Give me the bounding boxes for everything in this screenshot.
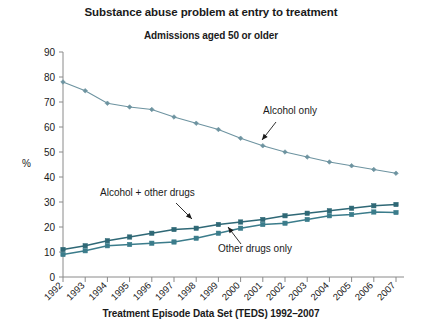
data-point <box>372 210 376 214</box>
data-point <box>127 235 131 239</box>
data-point <box>372 204 376 208</box>
data-point <box>238 136 243 141</box>
series-annotation-label: Other drugs only <box>218 243 292 254</box>
y-axis-tick-label: 70 <box>44 97 56 108</box>
x-axis-caption: Treatment Episode Data Set (TEDS) 1992–2… <box>0 308 422 319</box>
data-point <box>194 236 198 240</box>
data-point <box>61 252 65 256</box>
x-axis-tick-label: 1995 <box>108 280 131 303</box>
series-annotation-label: Alcohol + other drugs <box>100 187 195 198</box>
data-point <box>150 107 155 112</box>
data-point <box>216 231 220 235</box>
y-axis-tick-label: 90 <box>44 47 56 58</box>
annotation-group: Alcohol onlyAlcohol + other drugsOther d… <box>100 105 317 254</box>
x-axis-tick-label: 1993 <box>64 280 87 303</box>
data-point <box>127 105 132 110</box>
y-axis-tick-label: 60 <box>44 122 56 133</box>
series-annotation-label: Alcohol only <box>263 105 317 116</box>
y-axis-tick-label: 30 <box>44 197 56 208</box>
data-point <box>261 217 265 221</box>
chart-plot-area: 0102030405060708090 19921993199419951996… <box>0 0 422 324</box>
data-point <box>83 244 87 248</box>
data-point <box>83 249 87 253</box>
data-point <box>172 115 177 120</box>
y-axis-tick-label: 20 <box>44 222 56 233</box>
data-point <box>283 214 287 218</box>
y-axis-tick-label: 10 <box>44 247 56 258</box>
y-axis-tick-label: 80 <box>44 72 56 83</box>
data-point <box>61 247 65 251</box>
annotation-arrowhead <box>262 134 268 140</box>
data-point <box>238 226 242 230</box>
data-point <box>261 143 266 148</box>
x-axis-tick-label: 2006 <box>352 280 375 303</box>
data-point <box>105 244 109 248</box>
annotation-arrowhead <box>228 227 234 233</box>
data-point <box>394 171 399 176</box>
data-point <box>105 239 109 243</box>
x-axis-tick-label: 2001 <box>241 280 264 303</box>
data-point <box>105 101 110 106</box>
x-axis-tick-label: 2004 <box>308 280 331 303</box>
data-point <box>349 163 354 168</box>
data-point <box>261 222 265 226</box>
y-axis-tick-label: 40 <box>44 172 56 183</box>
data-point <box>305 211 309 215</box>
data-point <box>194 121 199 126</box>
x-axis-tick-label: 1998 <box>175 280 198 303</box>
x-axis-tick-label: 2003 <box>286 280 309 303</box>
data-point <box>394 202 398 206</box>
x-axis-tick-label: 1999 <box>197 280 220 303</box>
data-point <box>150 231 154 235</box>
data-point <box>83 88 88 93</box>
data-point <box>216 127 221 132</box>
x-axis-tick-label: 1997 <box>153 280 176 303</box>
x-axis: 1992199319941995199619971998199920002001… <box>42 277 404 302</box>
data-point <box>238 220 242 224</box>
data-point <box>61 80 66 85</box>
data-point <box>327 214 331 218</box>
data-point <box>216 222 220 226</box>
data-point <box>150 241 154 245</box>
x-axis-tick-label: 1992 <box>42 280 65 303</box>
data-point <box>172 227 176 231</box>
data-series <box>61 80 399 176</box>
x-axis-tick-label: 2000 <box>219 280 242 303</box>
x-axis-tick-label: 2005 <box>330 280 353 303</box>
data-point <box>305 217 309 221</box>
data-point <box>127 242 131 246</box>
data-point <box>349 212 353 216</box>
data-point <box>305 155 310 160</box>
data-point <box>327 160 332 165</box>
y-axis: 0102030405060708090 <box>44 47 63 283</box>
x-axis-tick-label: 1996 <box>130 280 153 303</box>
data-point <box>283 150 288 155</box>
data-point <box>172 240 176 244</box>
data-point <box>372 167 377 172</box>
y-axis-tick-label: 50 <box>44 147 56 158</box>
x-axis-tick-label: 1994 <box>86 280 109 303</box>
data-point <box>349 206 353 210</box>
chart-figure: Substance abuse problem at entry to trea… <box>0 0 422 324</box>
data-point <box>327 209 331 213</box>
data-point <box>394 210 398 214</box>
data-point <box>194 226 198 230</box>
x-axis-tick-label: 2002 <box>264 280 287 303</box>
x-axis-tick-label: 2007 <box>375 280 398 303</box>
data-point <box>283 221 287 225</box>
